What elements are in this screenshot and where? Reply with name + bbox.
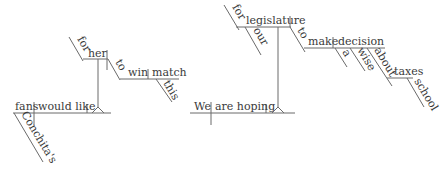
d2-make: make (308, 35, 338, 48)
d1-win: win (128, 66, 148, 79)
d2-decision: decision (338, 35, 384, 48)
sentence-diagrams: fans would like Conchita's for her to wi… (0, 0, 444, 172)
d2-verb: are hoping (215, 100, 275, 113)
d1-subject-modifier: Conchita's (18, 109, 59, 166)
d1-verb: would like (38, 100, 95, 113)
d1-match: match (152, 66, 187, 79)
d2-subject: We (194, 100, 211, 113)
d2-taxes: taxes (394, 65, 424, 78)
diagram-2: We are hoping for legislature our to mak… (190, 2, 441, 125)
diagram-1: fans would like Conchita's for her to wi… (13, 34, 187, 166)
d2-our: our (250, 25, 271, 49)
d2-legislature: legislature (246, 14, 306, 27)
d1-her: her (88, 47, 108, 60)
d2-school: school (411, 76, 441, 114)
